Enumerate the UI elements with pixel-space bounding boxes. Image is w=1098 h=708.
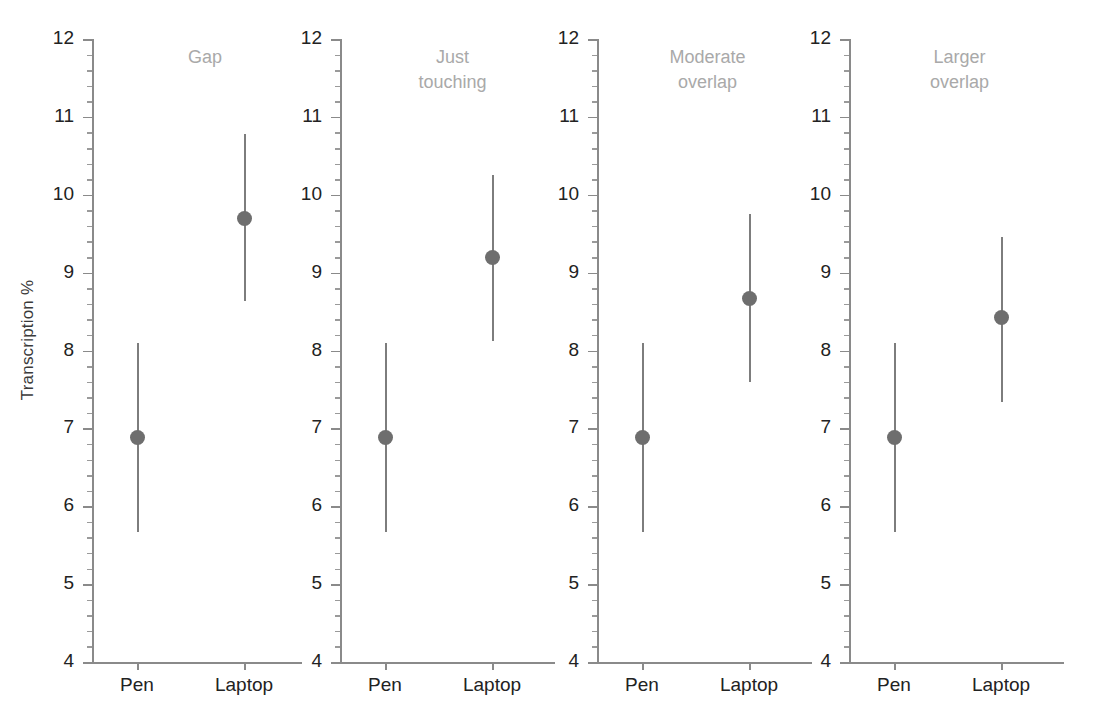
y-tick-major — [840, 117, 849, 119]
y-tick-minor — [844, 304, 849, 306]
y-tick-minor — [844, 444, 849, 446]
y-tick-label: 4 — [797, 650, 831, 672]
y-tick-label: 12 — [797, 27, 831, 49]
y-tick-minor — [844, 132, 849, 134]
y-tick-minor — [844, 413, 849, 415]
y-tick-label: 8 — [797, 339, 831, 361]
y-tick-label: 5 — [797, 572, 831, 594]
y-tick-minor — [844, 569, 849, 571]
y-tick-minor — [844, 101, 849, 103]
y-tick-minor — [844, 86, 849, 88]
y-tick-major — [840, 662, 849, 664]
y-tick-major — [840, 506, 849, 508]
y-tick-minor — [844, 382, 849, 384]
y-tick-major — [840, 428, 849, 430]
y-tick-minor — [844, 366, 849, 368]
x-axis-line — [849, 662, 1064, 664]
y-tick-minor — [844, 615, 849, 617]
y-tick-minor — [844, 241, 849, 243]
y-tick-label: 7 — [797, 416, 831, 438]
figure-canvas: Transcription % Gap121110987654PenLaptop… — [0, 0, 1098, 708]
x-tick — [1001, 662, 1003, 670]
y-tick-minor — [844, 55, 849, 57]
y-tick-major — [840, 351, 849, 353]
y-tick-minor — [844, 257, 849, 259]
y-tick-minor — [844, 631, 849, 633]
y-tick-major — [840, 195, 849, 197]
x-tick-label: Pen — [839, 674, 949, 696]
y-tick-minor — [844, 319, 849, 321]
y-tick-minor — [844, 179, 849, 181]
y-tick-minor — [844, 70, 849, 72]
y-tick-label: 6 — [797, 494, 831, 516]
y-tick-minor — [844, 522, 849, 524]
y-tick-minor — [844, 553, 849, 555]
y-tick-label: 11 — [797, 105, 831, 127]
panel-title: Larger overlap — [852, 45, 1067, 95]
y-tick-label: 10 — [797, 183, 831, 205]
y-tick-minor — [844, 164, 849, 166]
y-tick-minor — [844, 537, 849, 539]
y-axis-line — [849, 39, 851, 662]
y-tick-minor — [844, 460, 849, 462]
x-tick-label: Laptop — [946, 674, 1056, 696]
y-tick-major — [840, 39, 849, 41]
y-tick-minor — [844, 226, 849, 228]
y-tick-minor — [844, 397, 849, 399]
y-tick-minor — [844, 646, 849, 648]
y-tick-minor — [844, 475, 849, 477]
data-point — [887, 430, 902, 445]
y-tick-minor — [844, 210, 849, 212]
y-tick-minor — [844, 491, 849, 493]
y-tick-minor — [844, 335, 849, 337]
panel-4: Larger overlap121110987654PenLaptop — [0, 0, 1098, 708]
y-tick-major — [840, 273, 849, 275]
y-tick-major — [840, 584, 849, 586]
y-tick-minor — [844, 600, 849, 602]
y-tick-label: 9 — [797, 261, 831, 283]
y-tick-minor — [844, 148, 849, 150]
data-point — [994, 310, 1009, 325]
y-tick-minor — [844, 288, 849, 290]
x-tick — [894, 662, 896, 670]
